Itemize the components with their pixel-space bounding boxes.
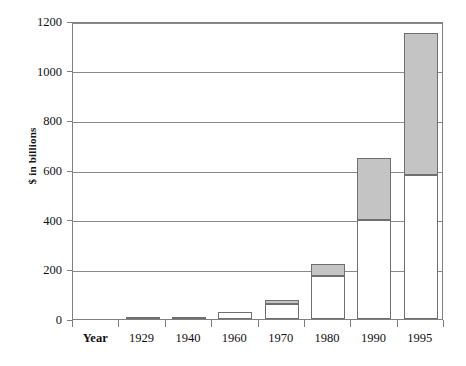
y-axis-tick-mark: [67, 121, 72, 122]
bar: [357, 158, 391, 319]
y-axis-tick-label: 600: [0, 165, 62, 178]
bar-segment-lower: [357, 220, 391, 319]
x-axis-tick-mark: [118, 320, 119, 327]
y-axis-tick-mark: [67, 171, 72, 172]
y-axis-tick-label: 200: [0, 264, 62, 277]
bar-segment-lower: [126, 317, 160, 319]
bar: [172, 318, 206, 319]
y-axis-tick-mark: [67, 270, 72, 271]
plot-area: [72, 22, 443, 320]
bar-chart: $ in billions 020040060080010001200Year1…: [0, 0, 466, 366]
y-axis-title: $ in billions: [26, 86, 38, 226]
x-axis-tick-mark: [304, 320, 305, 327]
bar: [126, 318, 160, 319]
bar-segment-lower: [218, 312, 252, 319]
gridline: [73, 23, 442, 24]
bar-segment-upper: [404, 33, 438, 175]
x-axis-tick-label: 1929: [129, 332, 154, 345]
bar-segment-lower: [172, 317, 206, 319]
bar-segment-lower: [404, 175, 438, 319]
x-axis-tick-label: 1970: [268, 332, 293, 345]
x-axis-tick-label: 1990: [361, 332, 386, 345]
x-axis-tick-mark: [72, 320, 73, 327]
x-axis-title: Year: [83, 332, 108, 345]
bar-segment-lower: [311, 276, 345, 319]
bar-segment-upper: [265, 300, 299, 303]
bar: [265, 300, 299, 319]
x-axis-tick-label: 1995: [407, 332, 432, 345]
x-axis-tick-label: 1940: [175, 332, 200, 345]
gridline: [73, 122, 442, 123]
bar: [404, 33, 438, 319]
bar: [218, 312, 252, 319]
y-axis-tick-mark: [67, 22, 72, 23]
bar-segment-upper: [357, 158, 391, 220]
y-axis-tick-label: 800: [0, 115, 62, 128]
x-axis-tick-mark: [165, 320, 166, 327]
bar-segment-lower: [265, 304, 299, 319]
y-axis-tick-label: 1000: [0, 65, 62, 78]
y-axis-tick-mark: [67, 220, 72, 221]
bar-segment-upper: [311, 264, 345, 275]
x-axis-tick-label: 1960: [222, 332, 247, 345]
x-axis-tick-mark: [397, 320, 398, 327]
x-axis-tick-mark: [350, 320, 351, 327]
x-axis-tick-label: 1980: [315, 332, 340, 345]
gridline: [73, 72, 442, 73]
y-axis-tick-mark: [67, 71, 72, 72]
x-axis-tick-mark: [443, 320, 444, 327]
x-axis-tick-mark: [258, 320, 259, 327]
y-axis-tick-label: 400: [0, 214, 62, 227]
x-axis-tick-mark: [211, 320, 212, 327]
y-axis-tick-label: 0: [0, 314, 62, 327]
bar: [311, 264, 345, 319]
y-axis-tick-label: 1200: [0, 16, 62, 29]
